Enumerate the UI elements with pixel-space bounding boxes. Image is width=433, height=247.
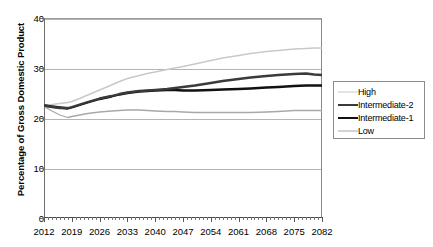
- x-minor-tick: [310, 217, 311, 220]
- x-major-tick: [155, 217, 156, 222]
- legend-label: High: [358, 87, 376, 97]
- x-minor-tick: [318, 217, 319, 220]
- x-major-tick: [100, 217, 101, 222]
- x-minor-tick: [96, 217, 97, 220]
- x-minor-tick: [60, 217, 61, 220]
- x-minor-tick: [119, 217, 120, 220]
- x-major-tick: [239, 217, 240, 222]
- x-minor-tick: [167, 217, 168, 220]
- x-major-tick: [211, 217, 212, 222]
- chart-legend: HighIntermediate-2Intermediate-1Low: [333, 81, 425, 139]
- x-minor-tick: [179, 217, 180, 220]
- x-minor-tick: [258, 217, 259, 220]
- x-minor-tick: [175, 217, 176, 220]
- x-major-tick: [44, 217, 45, 222]
- x-minor-tick: [302, 217, 303, 220]
- x-minor-tick: [56, 217, 57, 220]
- legend-label: Low: [358, 126, 374, 136]
- x-minor-tick: [262, 217, 263, 220]
- legend-line-icon: [338, 87, 358, 97]
- x-minor-tick: [203, 217, 204, 220]
- x-minor-tick: [88, 217, 89, 220]
- x-minor-tick: [187, 217, 188, 220]
- x-major-tick: [183, 217, 184, 222]
- legend-label: Intermediate-1: [358, 113, 413, 123]
- x-minor-tick: [298, 217, 299, 220]
- x-major-tick: [127, 217, 128, 222]
- series-line: [44, 107, 322, 118]
- x-minor-tick: [139, 217, 140, 220]
- x-minor-tick: [207, 217, 208, 220]
- chart-figure: Percentage of Gross Domestic Product 010…: [0, 0, 433, 247]
- x-minor-tick: [171, 217, 172, 220]
- x-minor-tick: [52, 217, 53, 220]
- legend-line-icon: [338, 100, 358, 110]
- x-minor-tick: [48, 217, 49, 220]
- x-minor-tick: [80, 217, 81, 220]
- legend-item[interactable]: Intermediate-2: [334, 98, 424, 111]
- x-minor-tick: [290, 217, 291, 220]
- x-major-tick: [266, 217, 267, 222]
- legend-item[interactable]: High: [334, 85, 424, 98]
- legend-line-icon: [338, 126, 358, 136]
- x-minor-tick: [251, 217, 252, 220]
- x-minor-tick: [270, 217, 271, 220]
- x-minor-tick: [147, 217, 148, 220]
- legend-line-icon: [338, 113, 358, 123]
- x-minor-tick: [219, 217, 220, 220]
- x-minor-tick: [68, 217, 69, 220]
- x-major-tick: [294, 217, 295, 222]
- legend-item[interactable]: Intermediate-1: [334, 111, 424, 124]
- x-minor-tick: [104, 217, 105, 220]
- x-minor-tick: [314, 217, 315, 220]
- x-minor-tick: [191, 217, 192, 220]
- legend-item[interactable]: Low: [334, 124, 424, 137]
- x-minor-tick: [135, 217, 136, 220]
- x-minor-tick: [64, 217, 65, 220]
- x-minor-tick: [231, 217, 232, 220]
- y-axis-ticks: 010203040: [0, 0, 44, 247]
- x-minor-tick: [123, 217, 124, 220]
- x-minor-tick: [199, 217, 200, 220]
- x-minor-tick: [254, 217, 255, 220]
- x-minor-tick: [278, 217, 279, 220]
- x-minor-tick: [235, 217, 236, 220]
- x-minor-tick: [115, 217, 116, 220]
- x-minor-tick: [143, 217, 144, 220]
- x-major-tick: [72, 217, 73, 222]
- x-minor-tick: [163, 217, 164, 220]
- x-minor-tick: [151, 217, 152, 220]
- x-minor-tick: [108, 217, 109, 220]
- x-minor-tick: [112, 217, 113, 220]
- x-minor-tick: [243, 217, 244, 220]
- series-line: [44, 86, 322, 109]
- x-minor-tick: [215, 217, 216, 220]
- legend-label: Intermediate-2: [358, 100, 413, 110]
- x-minor-tick: [227, 217, 228, 220]
- x-minor-tick: [247, 217, 248, 220]
- x-tick-label: 2082: [305, 226, 339, 237]
- series-lines: [44, 18, 322, 218]
- x-minor-tick: [92, 217, 93, 220]
- x-minor-tick: [131, 217, 132, 220]
- x-minor-tick: [84, 217, 85, 220]
- x-minor-tick: [274, 217, 275, 220]
- series-line: [44, 48, 322, 105]
- x-major-tick: [322, 217, 323, 222]
- x-minor-tick: [282, 217, 283, 220]
- x-minor-tick: [306, 217, 307, 220]
- x-minor-tick: [159, 217, 160, 220]
- x-minor-tick: [286, 217, 287, 220]
- x-minor-tick: [76, 217, 77, 220]
- x-minor-tick: [195, 217, 196, 220]
- x-minor-tick: [223, 217, 224, 220]
